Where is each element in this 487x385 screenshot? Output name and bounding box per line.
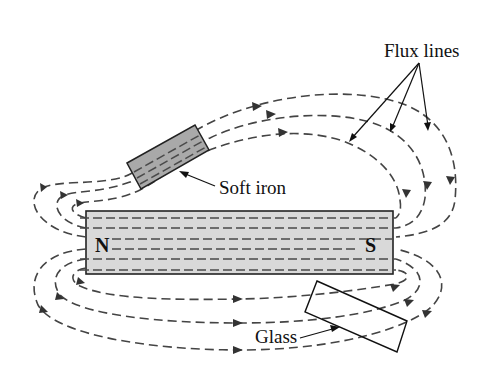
flux-lines-label: Flux lines (384, 41, 459, 60)
flux-lines-pointers (349, 63, 431, 142)
magnetic-flux-diagram: Flux lines Soft iron Glass N S (0, 0, 487, 385)
north-pole-label: N (95, 235, 109, 255)
soft-iron-pointer (179, 171, 215, 186)
soft-iron-label: Soft iron (219, 178, 286, 197)
soft-iron-piece (127, 125, 209, 189)
glass-pointer (300, 325, 340, 338)
south-pole-label: S (365, 235, 376, 255)
glass-piece (305, 281, 407, 352)
bar-magnet (86, 211, 393, 274)
glass-label: Glass (255, 327, 297, 346)
